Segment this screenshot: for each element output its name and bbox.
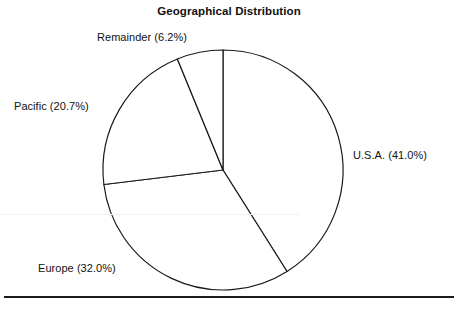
pie-chart-figure: Geographical Distribution U.S.A. (41.0%)… xyxy=(0,0,458,311)
bottom-horizontal-rule xyxy=(4,296,454,298)
pie-label-usa: U.S.A. (41.0%) xyxy=(353,149,427,161)
pie-label-pacific: Pacific (20.7%) xyxy=(14,100,89,112)
pie-label-europe: Europe (32.0%) xyxy=(38,262,116,274)
pie-label-remainder: Remainder (6.2%) xyxy=(97,31,187,43)
pie-slice-group xyxy=(103,50,343,290)
scan-artifact-line xyxy=(0,214,300,215)
